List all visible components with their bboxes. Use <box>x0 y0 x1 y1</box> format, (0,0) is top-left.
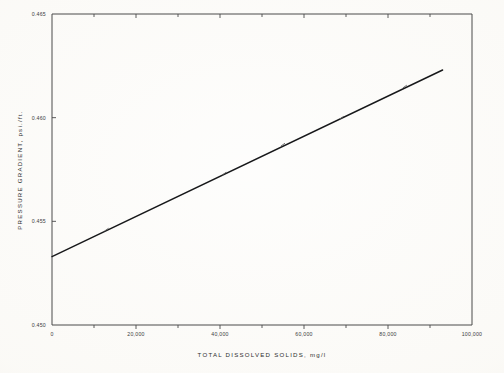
pressure-gradient-line <box>52 70 443 257</box>
y-axis-tick-labels: 0.4500.4550.4600.465 <box>32 11 46 328</box>
axis-rectangle <box>52 14 472 325</box>
y-axis-title: PRESSURE GRADIENT, psi./ft. <box>16 110 23 229</box>
x-axis-tick-labels: 020,00040,00060,00080,000100,000 <box>50 331 482 337</box>
x-tick-label-80000: 80,000 <box>379 331 396 337</box>
x-tick-label-40000: 40,000 <box>211 331 228 337</box>
x-tick-label-20000: 20,000 <box>127 331 144 337</box>
plot-frame <box>52 14 472 325</box>
x-tick-label-100000: 100,000 <box>462 331 483 337</box>
x-axis-title: TOTAL DISSOLVED SOLIDS, mg/l <box>198 351 327 358</box>
y-axis-ticks <box>52 118 56 222</box>
data-series <box>52 70 443 257</box>
x-tick-label-60000: 60,000 <box>295 331 312 337</box>
y-tick-label-0.45: 0.450 <box>32 322 46 328</box>
y-tick-label-0.465: 0.465 <box>32 11 46 17</box>
pressure-gradient-chart: 020,00040,00060,00080,000100,000 0.4500.… <box>0 0 504 373</box>
x-axis-ticks <box>94 14 430 329</box>
y-tick-label-0.455: 0.455 <box>32 218 46 224</box>
plot-svg: 020,00040,00060,00080,000100,000 0.4500.… <box>0 0 504 373</box>
x-tick-label-0: 0 <box>50 331 53 337</box>
chart-page: 020,00040,00060,00080,000100,000 0.4500.… <box>0 0 504 373</box>
y-tick-label-0.46: 0.460 <box>32 115 46 121</box>
